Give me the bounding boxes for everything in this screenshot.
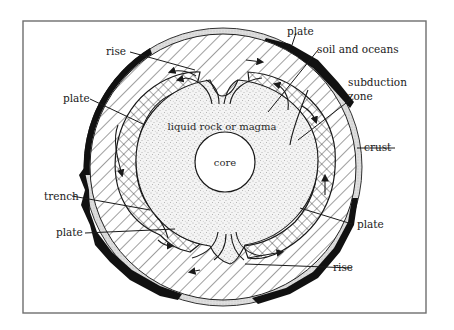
core-label: core [214,157,236,168]
label-plate-lower-right: plate [357,218,384,230]
label-trench: trench [44,190,79,202]
liquid-rock-label: liquid rock or magma [168,121,277,132]
label-plate-lower-left: plate [56,226,83,238]
label-subduction-zone-1: subduction [348,76,407,88]
label-subduction-zone-2: zone [348,90,373,102]
label-plate-top: plate [287,25,314,37]
earth-cross-section-diagram: core liquid rock or magma rise plate soi… [0,0,454,330]
label-crust: crust [364,141,392,153]
label-soil-and-oceans: soil and oceans [317,43,399,55]
label-rise-bottom: rise [333,261,353,273]
label-plate-left: plate [63,92,90,104]
label-rise-top: rise [106,45,126,57]
